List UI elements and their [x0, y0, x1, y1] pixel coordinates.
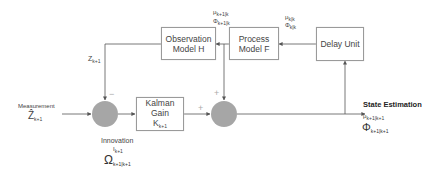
kalman-gain-line2: Gain: [146, 108, 175, 118]
state-mean-label: μk+1|k+1: [363, 113, 384, 121]
observation-model-line1: Observation: [166, 34, 212, 44]
process-model-line2: Model F: [239, 44, 270, 54]
prior-covariance-label: Φk|k: [285, 22, 296, 30]
prior-mean-label: μk|k: [285, 14, 295, 22]
kalman-gain-line1: Kalman: [146, 98, 175, 108]
predicted-mean-label: μk+1|k: [213, 9, 228, 17]
plus-sign-top: +: [214, 88, 219, 98]
process-model-block: Process Model F: [229, 27, 279, 60]
innovation-junction: [92, 101, 118, 127]
minus-sign: −: [109, 89, 114, 99]
delay-unit-block: Delay Unit: [316, 27, 364, 61]
innovation-label: Innovation: [101, 137, 133, 144]
process-model-line1: Process: [239, 34, 270, 44]
innovation-covariance-symbol: Ωk+1|k+1: [104, 153, 131, 167]
kalman-gain-symbol: Kk+1: [146, 118, 175, 131]
sum-junction: [211, 101, 237, 127]
observation-model-line2: Model H: [166, 44, 212, 54]
predicted-observation-label: Zk+1: [88, 55, 100, 64]
state-estimation-label: State Estimation: [363, 100, 422, 109]
measurement-label: Measurement: [18, 103, 55, 109]
predicted-covariance-label: Φk+1|k: [213, 18, 230, 26]
plus-sign-left: +: [198, 103, 203, 113]
delay-unit-label: Delay Unit: [320, 39, 359, 49]
state-covariance-label: Φk+1|k+1: [362, 121, 388, 134]
measurement-symbol: Ẑk+1: [28, 110, 42, 122]
kalman-gain-block: Kalman Gain Kk+1: [136, 97, 184, 131]
observation-model-block: Observation Model H: [161, 27, 216, 60]
